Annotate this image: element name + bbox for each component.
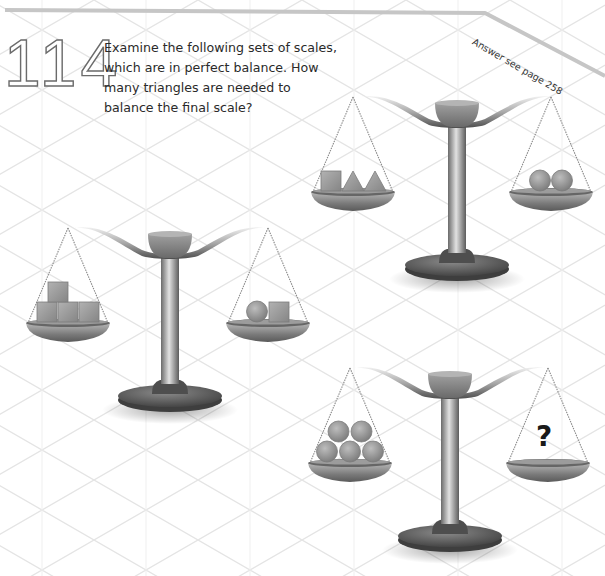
shape-square: [269, 302, 289, 322]
scale-3-left-pan: [308, 368, 392, 482]
shape-square: [37, 302, 57, 322]
shape-circle: [328, 421, 349, 442]
scale-1-right-pan: [509, 97, 593, 211]
shape-circle: [552, 170, 573, 191]
unknown-quantity-question-mark: ?: [536, 420, 552, 453]
shape-square: [58, 302, 78, 322]
scale-1-left-pan: [311, 97, 395, 211]
shape-circle: [351, 421, 372, 442]
shape-square: [48, 282, 68, 302]
scale-2: [26, 227, 310, 424]
shape-circle: [530, 170, 551, 191]
shape-circle: [340, 441, 361, 462]
scale-2-left-pan: [26, 228, 110, 342]
scales-illustration: [0, 0, 605, 576]
shape-circle: [317, 441, 338, 462]
shape-triangle: [364, 171, 386, 191]
scale-2-right-pan: [226, 228, 310, 342]
shape-triangle: [342, 171, 364, 191]
shape-circle: [363, 441, 384, 462]
scale-1: [311, 96, 593, 293]
shape-circle: [247, 301, 268, 322]
scale-3: [308, 367, 590, 564]
shape-square: [321, 171, 341, 191]
shape-square: [79, 302, 99, 322]
